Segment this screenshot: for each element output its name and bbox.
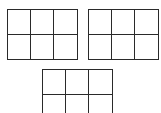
top-left-grid (7, 9, 78, 60)
grid-cell (66, 95, 89, 113)
grid-cell (66, 70, 89, 95)
grid-cell (89, 35, 112, 60)
bottom-grid (42, 69, 113, 113)
grid-cell (8, 35, 31, 60)
top-right-grid (88, 9, 159, 60)
grid-cell (89, 95, 112, 113)
grid-cell (135, 35, 158, 60)
grid-cell (112, 10, 135, 35)
grid-cell (54, 10, 77, 35)
grid-cell (43, 95, 66, 113)
grid-cell (135, 10, 158, 35)
grid-cell (31, 10, 54, 35)
grid-cell (54, 35, 77, 60)
grid-cell (43, 70, 66, 95)
grid-cell (112, 35, 135, 60)
grid-cell (8, 10, 31, 35)
grid-cell (89, 10, 112, 35)
grid-cell (31, 35, 54, 60)
grid-cell (89, 70, 112, 95)
